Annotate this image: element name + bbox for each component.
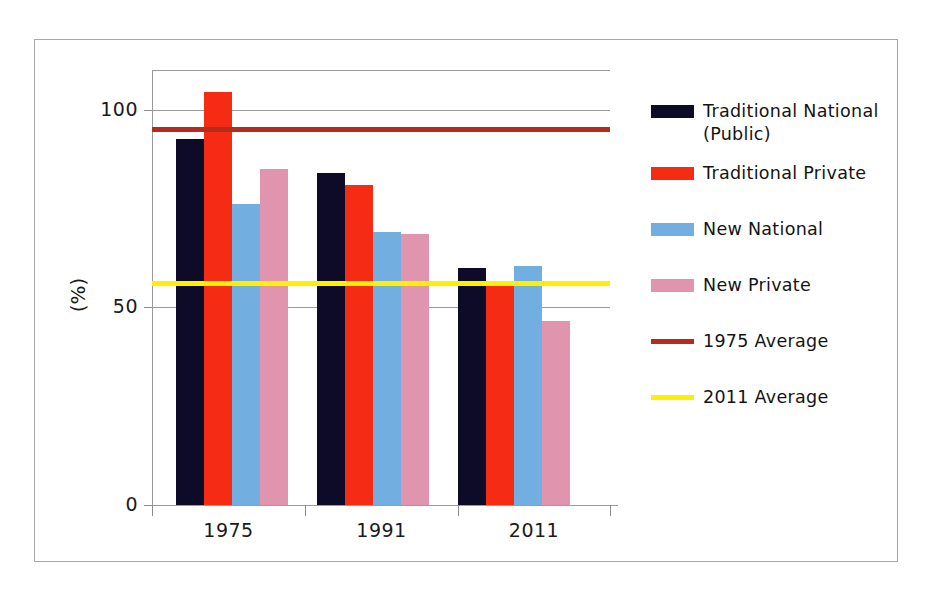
legend-label: Traditional National (Public) <box>703 100 879 146</box>
x-tick-mark-1 <box>305 505 306 516</box>
y-axis-title: (%) <box>55 265 101 325</box>
legend-label: Traditional Private <box>703 162 866 185</box>
legend-item-new-national[interactable]: New National <box>651 218 823 241</box>
x-tick-mark-2 <box>458 505 459 516</box>
legend-item-traditional-private[interactable]: Traditional Private <box>651 162 866 185</box>
bar-1975-new-national <box>232 204 260 505</box>
legend-label: 2011 Average <box>703 386 829 409</box>
legend-label: New National <box>703 218 823 241</box>
y-tick-text: 100 <box>94 98 138 120</box>
legend-swatch-icon <box>651 167 694 180</box>
legend-item-2011-average[interactable]: 2011 Average <box>651 386 829 409</box>
bar-1991-traditional-national-public <box>317 173 345 505</box>
bar-2011-traditional-private <box>486 282 514 505</box>
x-tick-label-2011: 2011 <box>489 519 579 541</box>
bar-1991-new-private <box>401 234 429 505</box>
legend-swatch-icon <box>651 223 694 236</box>
bar-2011-new-national <box>514 266 542 505</box>
x-axis-line <box>152 505 618 506</box>
legend-item-traditional-national-public[interactable]: Traditional National (Public) <box>651 100 879 146</box>
bar-1975-traditional-national-public <box>176 139 204 505</box>
bar-1991-traditional-private <box>345 185 373 505</box>
legend-label: 1975 Average <box>703 330 829 353</box>
legend-swatch-icon <box>651 105 694 118</box>
legend-item-1975-average[interactable]: 1975 Average <box>651 330 829 353</box>
bar-2011-new-private <box>542 321 570 505</box>
reference-line-1975-average <box>152 127 610 132</box>
bar-chart: 050100 (%) 197519912011 Traditional Nati… <box>0 0 931 590</box>
bar-1991-new-national <box>373 232 401 505</box>
legend-item-new-private[interactable]: New Private <box>651 274 811 297</box>
x-tick-mark-0 <box>152 505 153 516</box>
x-tick-label-1975: 1975 <box>184 519 274 541</box>
legend-swatch-icon <box>651 395 694 400</box>
bar-1975-traditional-private <box>204 92 232 505</box>
x-tick-label-1991: 1991 <box>337 519 427 541</box>
y-tick-text: 0 <box>94 493 138 515</box>
legend-swatch-icon <box>651 339 694 344</box>
y-tick-label-100: 100 <box>86 98 138 122</box>
reference-line-2011-average <box>152 281 610 286</box>
legend-label: New Private <box>703 274 811 297</box>
x-tick-mark-3 <box>610 505 611 516</box>
y-tick-label-0: 0 <box>86 493 138 517</box>
legend-swatch-icon <box>651 279 694 292</box>
bar-1975-new-private <box>260 169 288 505</box>
bar-2011-traditional-national-public <box>458 268 486 505</box>
